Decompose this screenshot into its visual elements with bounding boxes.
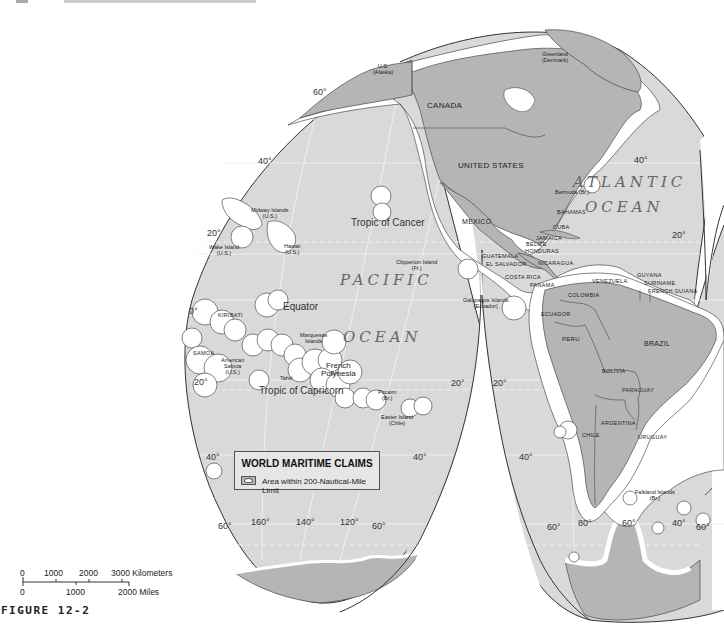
lat-40s-pacific-left: 40° bbox=[206, 453, 220, 462]
label-samoa: SAMOA bbox=[193, 351, 214, 357]
label-costa-rica: COSTA RICA bbox=[505, 275, 541, 281]
label-alaska: U.S.(Alaska) bbox=[373, 64, 393, 76]
label-canada: CANADA bbox=[427, 102, 462, 110]
label-united-states: UNITED STATES bbox=[458, 162, 524, 170]
label-suriname: SURINAME bbox=[644, 281, 675, 287]
lat-20s-pacific-right: 20° bbox=[451, 379, 465, 388]
map-legend: WORLD MARITIME CLAIMS Area within 200-Na… bbox=[234, 451, 380, 490]
scale-mi-0: 0 bbox=[20, 587, 25, 597]
lat-60n-pacific: 60° bbox=[313, 88, 327, 97]
lon-40-label: 40° bbox=[672, 519, 686, 528]
label-kiribati: KIRIBATI bbox=[218, 313, 243, 319]
scale-mi-2000: 2000 Miles bbox=[118, 587, 159, 597]
claim-zone-swatch-icon bbox=[241, 476, 256, 485]
label-easter-island: Easter Island(Chile) bbox=[381, 415, 413, 427]
label-mexico: MEXICO bbox=[462, 218, 491, 225]
legend-item-label: Area within 200-Nautical-Mile Limit bbox=[262, 477, 379, 495]
lat-40s-americas: 40° bbox=[519, 453, 533, 462]
label-uruguay: URUGUAY bbox=[638, 435, 667, 441]
lat-60s-americas-right: 60° bbox=[696, 523, 710, 532]
label-tahiti: Tahiti bbox=[280, 376, 293, 382]
scale-bar-line bbox=[20, 577, 132, 587]
label-pacific-ocean: OCEAN bbox=[343, 330, 422, 345]
label-argentina: ARGENTINA bbox=[601, 421, 636, 427]
label-equator: Equator bbox=[283, 302, 318, 312]
label-peru: PERU bbox=[562, 336, 580, 342]
lat-20s-americas: 20° bbox=[493, 379, 507, 388]
label-guatemala: GUATEMALA bbox=[482, 254, 518, 260]
label-marquesas: MarquesasIslands bbox=[300, 333, 327, 345]
label-wake: Wake Island(U.S.) bbox=[209, 245, 239, 257]
label-galapagos: Galápagos Islands(Ecuador) bbox=[463, 298, 509, 310]
label-clipperton: Clipperton Island(Fr.) bbox=[396, 260, 437, 272]
lat-20n-americas: 20° bbox=[672, 231, 686, 240]
lon-160-label: 160° bbox=[251, 518, 270, 527]
world-map bbox=[0, 0, 724, 639]
lon-120-label: 120° bbox=[340, 518, 359, 527]
label-jamaica: JAMAICA bbox=[536, 236, 562, 242]
label-bahamas: BAHAMAS bbox=[557, 210, 586, 216]
label-pacific: PACIFIC bbox=[340, 273, 433, 288]
label-belize: BELIZE bbox=[526, 242, 547, 248]
label-colombia: COLOMBIA bbox=[568, 293, 599, 299]
label-nicaragua: NICARAGUA bbox=[538, 261, 573, 267]
label-chile: CHILE bbox=[582, 433, 600, 439]
lat-60s-pacific-left: 60° bbox=[218, 522, 232, 531]
legend-title: WORLD MARITIME CLAIMS bbox=[235, 458, 379, 469]
lat-40n-americas: 40° bbox=[634, 156, 648, 165]
lat-40n-pacific: 40° bbox=[258, 157, 272, 166]
label-pitcairn: Pitcairn(Br.) bbox=[378, 390, 396, 402]
label-falkland: Falkland Islands(Br.) bbox=[635, 490, 675, 502]
label-tropic-of-capricorn: Tropic of Capricorn bbox=[259, 386, 344, 396]
label-hawaii: Hawaii(U.S.) bbox=[284, 244, 301, 256]
scale-bar: 0 1000 2000 3000 Kilometers 0 1000 2000 … bbox=[0, 566, 210, 596]
lat-60s-americas-left: 60° bbox=[547, 523, 561, 532]
label-atlantic-ocean: OCEAN bbox=[585, 200, 664, 215]
label-venezuela: VENEZUELA bbox=[592, 279, 627, 285]
label-tropic-of-cancer: Tropic of Cancer bbox=[351, 218, 425, 228]
label-ecuador: ECUADOR bbox=[541, 312, 571, 318]
lat-20s-pacific-left: 20° bbox=[194, 378, 208, 387]
label-greenland: Greenland(Denmark) bbox=[542, 52, 568, 64]
label-guyana: GUYANA bbox=[637, 273, 662, 279]
label-honduras: HONDURAS bbox=[525, 249, 559, 255]
label-atlantic: ATLANTIC bbox=[573, 175, 686, 190]
label-american-samoa: AmericanSamoa(U.S.) bbox=[221, 358, 244, 375]
label-cuba: CUBA bbox=[553, 225, 569, 231]
label-panama: PANAMA bbox=[530, 283, 555, 289]
label-midway: Midway Islands(U.S.) bbox=[251, 208, 289, 220]
label-french-guiana: FRENCH GUIANA bbox=[648, 289, 697, 295]
lat-60s-pacific-right: 60° bbox=[372, 522, 386, 531]
scale-mi-1000: 1000 bbox=[66, 587, 85, 597]
lat-40s-pacific-right: 40° bbox=[413, 453, 427, 462]
lat-0-pacific: 0° bbox=[189, 307, 198, 316]
lon-140-label: 140° bbox=[296, 518, 315, 527]
label-brazil: BRAZIL bbox=[644, 340, 670, 347]
lat-20n-pacific: 20° bbox=[207, 229, 221, 238]
figure-label: FIGURE 12-2 bbox=[1, 604, 90, 617]
label-paraguay: PARAGUAY bbox=[622, 388, 654, 394]
label-bolivia: BOLIVIA bbox=[602, 369, 626, 375]
label-el-salvador: EL SALVADOR bbox=[486, 262, 527, 268]
lon-80-label: 80° bbox=[578, 519, 592, 528]
lon-60-label: 60° bbox=[622, 519, 636, 528]
label-french-polynesia: FrenchPolynesia bbox=[321, 362, 356, 379]
